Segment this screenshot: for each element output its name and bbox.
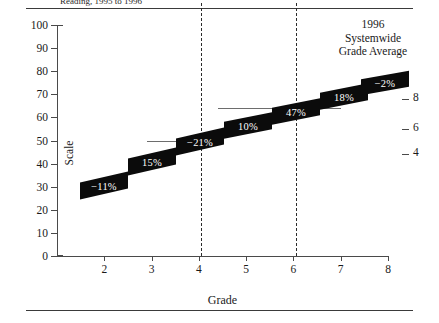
bar-label-grade-3: 15% (142, 156, 162, 167)
figure-caption-top: Reading, 1995 to 1996 (60, 0, 280, 8)
y-tick-label: 50 (37, 140, 49, 141)
y-axis-line (57, 25, 58, 256)
bar-label-grade-6: 47% (286, 106, 306, 117)
x-tick (104, 256, 105, 261)
x-tick (341, 256, 342, 261)
y-tick (51, 71, 57, 72)
y-axis-cap-top (57, 25, 63, 26)
bar-label-grade-8: −2% (375, 78, 396, 89)
bar-grade-8: −2% (361, 71, 409, 95)
bar-label-grade-4: −21% (187, 136, 213, 147)
bar-grade-5: 10% (224, 112, 272, 138)
y-tick-label: 40 (37, 163, 49, 164)
y-tick-label: 80 (37, 71, 49, 72)
y-axis-title: Scale (63, 141, 75, 166)
y-tick (51, 141, 57, 142)
y-tick-label: 90 (37, 48, 49, 49)
y-tick (51, 164, 57, 165)
divider-line-grade-6-7 (296, 3, 297, 256)
y-tick-label: 30 (37, 186, 49, 187)
x-tick-label: 5 (243, 263, 249, 275)
right-axis-label: 4 (413, 146, 419, 158)
right-axis-label: 8 (413, 91, 419, 103)
divider-line-grade-4-5 (201, 3, 202, 256)
y-tick-label: 10 (37, 232, 49, 233)
bar-label-grade-2: −11% (91, 180, 117, 191)
x-axis-line (57, 256, 388, 257)
bar-grade-4: −21% (176, 127, 224, 155)
bar-label-grade-5: 10% (238, 120, 258, 131)
x-tick (388, 256, 389, 261)
figure-bottom-rule (26, 310, 413, 311)
x-tick-label: 4 (196, 263, 202, 275)
x-tick (293, 256, 294, 261)
x-tick-label: 6 (291, 263, 297, 275)
bar-label-grade-7: 18% (334, 91, 354, 102)
x-tick (199, 256, 200, 261)
y-tick-label: 100 (31, 25, 48, 26)
right-axis-label: 6 (413, 121, 419, 133)
y-tick (51, 48, 57, 49)
y-tick (51, 94, 57, 95)
annotation-line-grade-average: Grade Average (321, 45, 425, 59)
y-tick-label: 20 (37, 209, 49, 210)
x-tick-label: 2 (101, 263, 107, 275)
y-tick (51, 117, 57, 118)
figure-top-rule (26, 8, 413, 9)
right-axis-tick (402, 154, 409, 155)
x-tick (246, 256, 247, 261)
x-tick-label: 8 (385, 263, 391, 275)
bar-grade-2: −11% (80, 171, 128, 199)
x-tick-label: 3 (149, 263, 155, 275)
y-tick (51, 233, 57, 234)
y-tick-label: 70 (37, 94, 49, 95)
y-tick (51, 210, 57, 211)
y-tick (51, 187, 57, 188)
plot-area: 100 90 80 70 60 50 40 30 (57, 25, 388, 256)
right-axis-tick (402, 129, 409, 130)
right-axis-tick (402, 99, 409, 100)
annotation-line-systemwide: Systemwide (321, 32, 425, 46)
y-tick-label: 60 (37, 117, 49, 118)
x-tick (152, 256, 153, 261)
x-axis-title: Grade (208, 293, 237, 308)
y-tick-label: 0 (42, 256, 48, 257)
bar-grade-3: 15% (128, 147, 176, 175)
annotation-line-year: 1996 (321, 18, 425, 32)
figure-chart: Reading, 1995 to 1996 100 90 80 70 60 (0, 0, 439, 323)
y-tick (51, 256, 57, 257)
chart-annotation: 1996 Systemwide Grade Average (321, 18, 425, 59)
x-tick-label: 7 (338, 263, 344, 275)
y-tick (51, 25, 57, 26)
